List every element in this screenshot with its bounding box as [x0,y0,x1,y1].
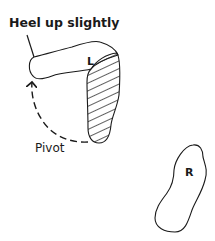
pivot-label: Pivot [35,141,65,155]
right-foot-outline [155,145,206,232]
left-foot: L [29,41,120,143]
leader-line [27,35,34,57]
diagram-svg: Heel up slightly L Pivot R [0,0,215,241]
right-foot-label: R [185,166,194,179]
heel-up-label: Heel up slightly [9,15,120,30]
right-foot: R [155,145,206,232]
left-foot-label: L [87,55,94,68]
pivot-arc-arrow [32,82,88,142]
footwork-diagram: Heel up slightly L Pivot R [0,0,215,241]
